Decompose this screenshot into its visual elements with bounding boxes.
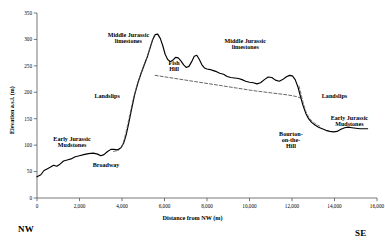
annotation-middle-jurassic-limestones-west: Middle Jurassic limestones (97, 32, 159, 44)
x-axis-tick-label: 10,000 (233, 203, 267, 209)
compass-label-nw: NW (18, 224, 34, 234)
x-axis-tick-label: 16,000 (360, 203, 385, 209)
annotation-middle-jurassic-limestones-east: Middle Jurassic limestones (214, 38, 276, 50)
series-topographic-profile (37, 34, 368, 177)
series-landslip-back-scar-upper (155, 75, 301, 98)
annotation-broadway: Broadway (75, 162, 137, 168)
x-axis-tick-label: 0 (20, 203, 54, 209)
y-axis-tick-label: 150 (13, 116, 32, 122)
x-axis-tick-label: 6,000 (148, 203, 182, 209)
cross-section-chart: Elevation a.s.l. (m) Distance from NW (m… (0, 0, 385, 244)
y-axis-tick-label: 300 (13, 36, 32, 42)
y-axis-tick-label: 50 (13, 168, 32, 174)
annotation-fish-hill: Fish Hill (143, 60, 205, 72)
compass-label-se: SE (355, 228, 367, 238)
y-axis-tick-label: 350 (13, 10, 32, 16)
x-axis-tick-label: 8,000 (190, 203, 224, 209)
annotation-early-jurassic-mudstones-west: Early Jurassic Mudstones (41, 136, 103, 148)
annotation-bourton-on-the-hill: Bourton- on-the- Hill (260, 131, 322, 150)
x-axis-tick-label: 2,000 (63, 203, 97, 209)
x-axis-label: Distance from NW (m) (0, 214, 385, 221)
y-axis-tick-label: 250 (13, 63, 32, 69)
annotation-landslips-west: Landslips (76, 93, 138, 99)
y-axis-tick-label: 100 (13, 142, 32, 148)
y-axis-tick-label: 0 (13, 195, 32, 201)
annotation-landslips-east: Landslips (304, 93, 366, 99)
y-axis-tick-label: 200 (13, 89, 32, 95)
x-axis-tick-label: 12,000 (275, 203, 309, 209)
annotation-early-jurassic-mudstones-east: Early Jurassic Mudstones (318, 115, 380, 127)
x-axis-tick-label: 4,000 (105, 203, 139, 209)
x-axis-tick-label: 14,000 (318, 203, 352, 209)
